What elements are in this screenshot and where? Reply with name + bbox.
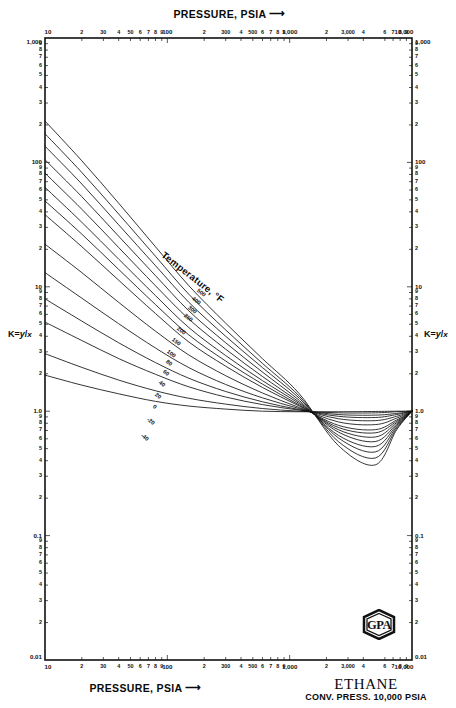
y-axis-label-left: K=y/x [8,329,32,339]
x-axis-tick-label-800: 8 [276,30,279,35]
y-axis-tick-label-left-0.2: 2 [39,495,42,500]
x-axis-tick-label-1000: 1,000 [282,29,297,35]
y-axis-tick-label-left-0.08: 8 [39,545,42,550]
y-axis-tick-label-right-500: 5 [415,73,418,78]
y-axis-tick-label-left-6: 6 [39,312,42,317]
temperature-curve-200 [45,273,412,421]
y-axis-tick-label-left-500: 5 [39,73,42,78]
gpa-logo: GPA [361,609,397,640]
species-title: ETHANE [286,676,446,693]
y-axis-tick-label-right-0.7: 7 [415,428,418,433]
x-axis-tick-label-200: 2 [203,30,206,35]
plot-frame [45,38,412,660]
x-axis-tick-label-bottom-800: 8 [276,664,279,669]
y-axis-tick-label-left-0.07: 7 [39,552,42,557]
y-axis-tick-label-right-0.3: 3 [415,474,418,479]
y-axis-tick-label-left-8: 8 [39,296,42,301]
y-axis-tick-label-left-0.3: 3 [39,474,42,479]
y-axis-label-right: K=y/x [424,329,448,339]
x-axis-tick-label-6000: 6 [383,30,386,35]
y-axis-tick-label-left-2: 2 [39,371,42,376]
y-axis-tick-label-right-400: 4 [415,85,418,90]
convergence-pressure-note: CONV. PRESS. 10,000 PSIA [276,692,456,702]
y-axis-tick-label-left-5: 5 [39,322,42,327]
x-axis-tick-label-2000: 2 [325,30,328,35]
y-axis-tick-label-left-700: 7 [39,55,42,60]
x-axis-tick-label-bottom-300: 300 [221,664,230,669]
y-axis-tick-label-left-0.8: 8 [39,421,42,426]
x-axis-tick-label-400: 4 [239,30,242,35]
x-axis-tick-label-bottom-50: 50 [128,664,134,669]
y-axis-tick-label-right-4: 4 [415,334,418,339]
right-arrow-icon-bottom: ⟶ [185,681,199,693]
x-axis-tick-label-bottom-400: 4 [239,664,242,669]
y-axis-tick-label-left-0.7: 7 [39,428,42,433]
y-axis-tick-label-left-0.02: 2 [39,620,42,625]
y-axis-tick-label-left-50: 5 [39,197,42,202]
y-axis-tick-label-right-800: 8 [415,47,418,52]
y-axis-tick-label-right-40: 4 [415,209,418,214]
y-axis-tick-label-left-600: 6 [39,63,42,68]
y-axis-tick-label-left-0.4: 4 [39,458,42,463]
y-axis-tick-label-right-50: 5 [415,197,418,202]
y-axis-tick-label-right-20: 2 [415,247,418,252]
x-axis-tick-label-bottom-6000: 6 [383,664,386,669]
y-axis-tick-label-right-0.08: 8 [415,545,418,550]
y-axis-tick-label-right-70: 7 [415,179,418,184]
temperature-curve-0 [45,146,412,452]
x-axis-tick-label-10000: 10,000 [395,29,414,35]
y-axis-tick-label-right-3: 3 [415,349,418,354]
temperature-curve-250 [45,299,412,418]
x-axis-tick-label-70: 7 [147,30,150,35]
y-axis-tick-label-left-3: 3 [39,349,42,354]
x-axis-tick-label-bottom-1000: 1,000 [282,664,297,670]
y-axis-tick-label-right-30: 3 [415,225,418,230]
x-axis-tick-label-bottom-600: 6 [261,664,264,669]
y-axis-tick-label-right-8: 8 [415,296,418,301]
k-value-chart: PRESSURE, PSIA⟶ 101022303044505066778899… [0,0,456,708]
gpa-logo-text: GPA [367,618,391,632]
temperature-curve--20 [45,134,412,459]
x-axis-tick-label-bottom-10000: 10,000 [395,664,414,670]
plot-area [0,0,456,708]
x-axis-tick-label-500: 500 [248,30,257,35]
y-axis-tick-label-right-0.07: 7 [415,552,418,557]
y-axis-tick-label-right-0.4: 4 [415,458,418,463]
x-axis-tick-label-80: 8 [154,30,157,35]
y-axis-tick-label-right-0.03: 3 [415,598,418,603]
y-axis-tick-label-left-0.5: 5 [39,446,42,451]
y-axis-tick-label-left-0.06: 6 [39,560,42,565]
y-axis-tick-label-left-4: 4 [39,334,42,339]
y-axis-tick-label-left-0.01: 0.01 [30,654,42,660]
y-axis-tick-label-right-80: 8 [415,172,418,177]
x-axis-tick-label-100: 100 [162,29,172,35]
x-axis-tick-label-bottom-40: 4 [117,664,120,669]
temperature-curve-500 [45,375,412,412]
y-axis-tick-label-left-0.04: 4 [39,582,42,587]
y-axis-tick-label-right-200: 2 [415,122,418,127]
x-axis-tick-label-700: 7 [269,30,272,35]
y-axis-tick-label-left-60: 6 [39,187,42,192]
x-axis-tick-label-30: 30 [100,30,106,35]
y-axis-tick-label-right-0.05: 5 [415,570,418,575]
temperature-curve-80 [45,201,412,433]
y-axis-tick-label-left-0.6: 6 [39,436,42,441]
x-axis-tick-label-bottom-200: 2 [203,664,206,669]
y-axis-tick-label-right-0.2: 2 [415,495,418,500]
x-axis-tick-label-bottom-30: 30 [100,664,106,669]
x-axis-tick-label-600: 6 [261,30,264,35]
x-axis-tick-label-bottom-2000: 2 [325,664,328,669]
y-axis-tick-label-right-5: 5 [415,322,418,327]
y-axis-tick-label-left-0.05: 5 [39,570,42,575]
y-axis-tick-label-left-0.03: 3 [39,598,42,603]
y-axis-tick-label-left-400: 4 [39,85,42,90]
y-axis-tick-label-left-80: 8 [39,172,42,177]
y-axis-tick-label-right-0.8: 8 [415,421,418,426]
y-axis-tick-label-left-70: 7 [39,179,42,184]
x-axis-tick-label-300: 300 [221,30,230,35]
x-axis-tick-label-bottom-20: 2 [80,664,83,669]
temperature-curve-60 [45,187,412,437]
y-axis-tick-label-right-2: 2 [415,371,418,376]
y-axis-tick-label-left-300: 3 [39,100,42,105]
y-axis-tick-label-right-60: 6 [415,187,418,192]
